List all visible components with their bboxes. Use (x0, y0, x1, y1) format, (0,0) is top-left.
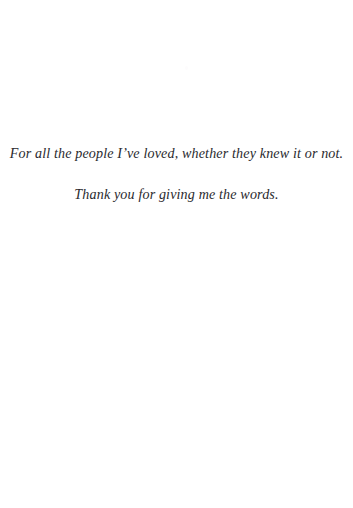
scan-speck-artifact (185, 66, 188, 70)
dedication-line-2: Thank you for giving me the words. (0, 160, 353, 201)
dedication-text-block: For all the people I’ve loved, whether t… (0, 140, 353, 201)
dedication-page: For all the people I’ve loved, whether t… (0, 0, 353, 508)
dedication-line-1: For all the people I’ve loved, whether t… (0, 140, 353, 160)
